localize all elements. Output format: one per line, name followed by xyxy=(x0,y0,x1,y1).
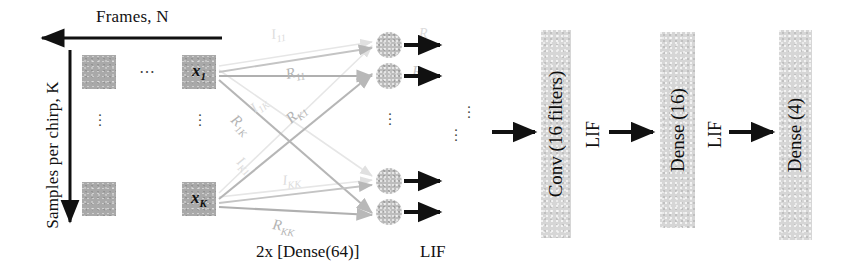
recurrent-neuron-4 xyxy=(376,199,402,225)
samples-axis-label: Samples per chirp, K xyxy=(43,55,63,255)
activation-label-lif-2: LIF xyxy=(705,121,726,148)
svg-text:R11: R11 xyxy=(283,62,306,85)
activation-label-lif-1: LIF xyxy=(583,121,604,148)
architecture-diagram: R11 R1K RK1 RKK I11 I1K xyxy=(0,0,845,272)
svg-text:R: R xyxy=(418,26,428,41)
weight-label-r11: R11 xyxy=(283,62,306,85)
neuron-output-arrows xyxy=(404,45,440,212)
svg-text:R: R xyxy=(411,63,422,80)
layer-block-dense4-label: Dense (4) xyxy=(785,98,807,172)
svg-text:IK1: IK1 xyxy=(231,153,256,178)
frames-axis-label: Frames, N xyxy=(96,7,169,27)
input-cell-top-left xyxy=(82,55,116,89)
svg-text:R1K: R1K xyxy=(225,111,255,141)
recurrent-neuron-1 xyxy=(376,32,402,58)
input-cell-xK-label: xK xyxy=(191,189,207,209)
svg-text:I11: I11 xyxy=(269,25,287,45)
svg-text:RK1: RK1 xyxy=(282,101,311,130)
input-cell-x1-label: x1 xyxy=(192,62,206,82)
svg-text:I1K: I1K xyxy=(247,93,273,119)
recurrent-layer-activation-label: LIF xyxy=(420,242,446,262)
faint-input-connections xyxy=(219,42,372,197)
weight-label-rk1: RK1 xyxy=(282,101,311,130)
recurrent-layer-caption: 2x [Dense(64)] xyxy=(256,242,359,262)
layer-block-conv-label: Conv (16 filters) xyxy=(545,71,567,198)
recurrent-weight-connections xyxy=(219,48,372,215)
svg-text:RKK: RKK xyxy=(270,216,298,239)
layer-block-dense16: Dense (16) xyxy=(660,32,695,228)
layer-block-dense16-label: Dense (16) xyxy=(667,88,689,172)
input-cell-bottom-left xyxy=(82,182,116,216)
faint-weight-label-ikk: IKK xyxy=(281,171,303,191)
input-column-ellipsis-left: ··· xyxy=(92,113,108,128)
faint-weight-label-ik1: IK1 xyxy=(231,153,256,178)
recurrent-output-ellipsis-lower: ··· xyxy=(448,128,464,143)
recurrent-neuron-3 xyxy=(376,168,402,194)
recurrent-output-label-faint: R xyxy=(418,26,428,41)
faint-weight-label-i1k: I1K xyxy=(247,93,273,119)
recurrent-neuron-2 xyxy=(376,63,402,89)
layer-block-conv: Conv (16 filters) xyxy=(541,30,571,238)
input-row-ellipsis-top: ⋯ xyxy=(139,64,158,80)
recurrent-output-label: R xyxy=(411,63,422,80)
input-column-ellipsis-right: ··· xyxy=(192,113,208,128)
layer-block-dense4: Dense (4) xyxy=(779,30,812,240)
recurrent-neuron-ellipsis: ··· xyxy=(382,112,398,127)
weight-label-rkk: RKK xyxy=(270,216,298,239)
input-cell-xK: xK xyxy=(182,182,216,216)
recurrent-output-ellipsis-upper: ··· xyxy=(461,105,477,120)
input-cell-x1: x1 xyxy=(182,55,216,89)
svg-text:IKK: IKK xyxy=(281,171,303,191)
faint-weight-label-i11: I11 xyxy=(269,25,287,45)
weight-label-r1k: R1K xyxy=(225,111,255,141)
